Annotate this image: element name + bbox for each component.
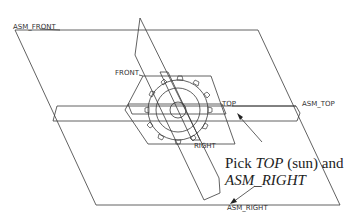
instruction-note: Pick TOP (sun) and ASM_RIGHT: [225, 155, 344, 189]
instruction-line-1: Pick TOP (sun) and: [225, 155, 344, 172]
asm-top-plane[interactable]: [53, 106, 300, 121]
instruction-line-2: ASM_RIGHT: [225, 172, 344, 189]
asm-top-label: ASM_TOP: [302, 101, 335, 108]
sun-gear: [145, 76, 212, 144]
top-label: TOP: [222, 101, 236, 108]
front-label: FRONT: [115, 70, 139, 77]
cad-datum-planes-diagram: ASM_FRONT FRONT TOP ASM_TOP RIGHT ASM_RI…: [0, 0, 356, 222]
asm-right-label: ASM_RIGHT: [227, 205, 268, 212]
asm-front-label: ASM_FRONT: [13, 24, 56, 31]
right-label: RIGHT: [194, 143, 216, 150]
front-plane[interactable]: [125, 76, 235, 144]
arrow-to-top: [239, 116, 262, 142]
